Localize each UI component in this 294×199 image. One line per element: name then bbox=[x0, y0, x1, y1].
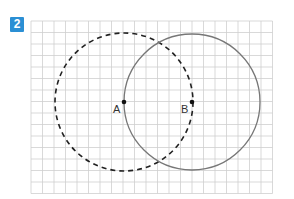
point-a bbox=[122, 100, 127, 105]
compass-construction-figure: A B bbox=[0, 0, 294, 199]
point-b bbox=[190, 100, 195, 105]
point-a-label: A bbox=[113, 103, 121, 115]
point-b-label: B bbox=[181, 103, 188, 115]
